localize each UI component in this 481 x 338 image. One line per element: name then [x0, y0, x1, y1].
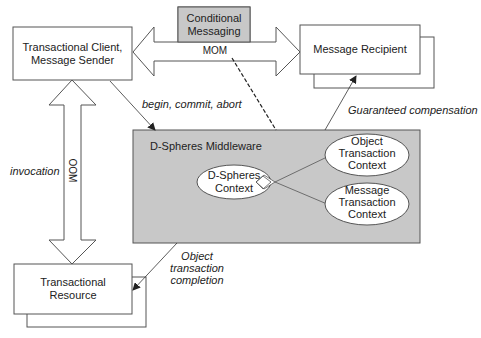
dspheres-context-label: D-Spheres Context: [197, 169, 271, 195]
message-context-line3: Context: [325, 208, 409, 220]
object-context-label: Object Transaction Context: [325, 135, 409, 171]
client-label-line2: Message Sender: [13, 54, 132, 67]
object-completion-line2: transaction: [164, 262, 230, 274]
object-completion-label: Object transaction completion: [164, 250, 230, 286]
oom-label: OOM: [66, 151, 79, 191]
invocation-label: invocation: [10, 165, 60, 178]
message-context-line2: Transaction: [325, 196, 409, 208]
object-context-line2: Transaction: [325, 147, 409, 159]
client-label-line1: Transactional Client,: [13, 41, 132, 54]
object-context-line3: Context: [325, 159, 409, 171]
object-completion-line1: Object: [164, 250, 230, 262]
object-completion-line3: completion: [164, 274, 230, 286]
mom-label: MOM: [180, 44, 250, 57]
recipient-label: Message Recipient: [300, 43, 420, 56]
object-context-line1: Object: [325, 135, 409, 147]
resource-label-line1: Transactional: [14, 276, 132, 289]
guaranteed-compensation-label: Guaranteed compensation: [348, 104, 478, 117]
resource-label: Transactional Resource: [14, 276, 132, 302]
begin-commit-abort-label: begin, commit, abort: [142, 98, 242, 111]
conditional-label-line2: Messaging: [178, 25, 250, 38]
conditional-dashed-line: [232, 58, 276, 130]
conditional-label-line1: Conditional: [178, 12, 250, 25]
conditional-label: Conditional Messaging: [178, 12, 250, 38]
resource-label-line2: Resource: [14, 289, 132, 302]
middleware-title: D-Spheres Middleware: [150, 140, 262, 153]
message-context-label: Message Transaction Context: [325, 184, 409, 220]
client-label: Transactional Client, Message Sender: [13, 41, 132, 67]
dspheres-context-line1: D-Spheres: [197, 169, 271, 182]
message-context-line1: Message: [325, 184, 409, 196]
dspheres-context-line2: Context: [197, 182, 271, 195]
